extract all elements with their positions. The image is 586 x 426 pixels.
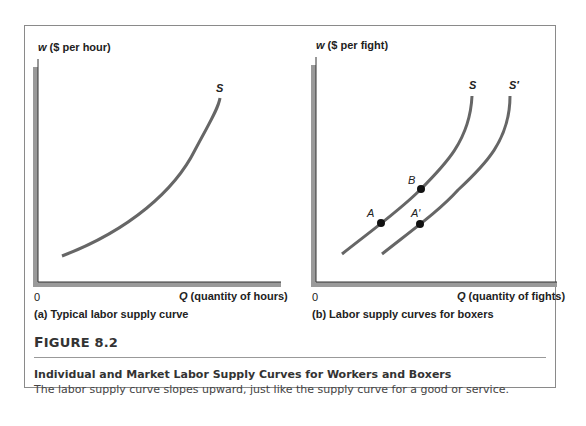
panel-b-supply-curve-s-prime <box>382 96 510 254</box>
caption-title: Individual and Market Labor Supply Curve… <box>34 368 451 381</box>
panel-b-curve-s-prime-label: S′ <box>509 79 519 91</box>
point-a-prime-label: A′ <box>411 207 420 219</box>
panel-a-subtitle: (a) Typical labor supply curve <box>34 308 188 320</box>
panel-a-x-label: Q (quantity of hours) <box>179 290 288 302</box>
panel-a-y-label: w ($ per hour) <box>38 41 111 53</box>
charts-svg <box>0 0 586 426</box>
panel-a-origin: 0 <box>34 291 40 303</box>
point-a <box>377 219 385 227</box>
panel-b-origin: 0 <box>312 291 318 303</box>
point-b-label: B <box>408 174 415 186</box>
panel-a-x-axis-shadow <box>33 282 281 287</box>
point-a-label: A <box>367 207 374 219</box>
panel-b-x-label: Q (quantity of fights) <box>457 290 565 302</box>
panel-a-y-axis-shadow <box>33 67 38 287</box>
panel-b-y-axis-shadow <box>311 65 316 287</box>
figure-label: FIGURE 8.2 <box>34 334 118 350</box>
panel-a-curve-label: S <box>216 82 223 94</box>
panel-a-supply-curve <box>62 98 220 256</box>
panel-b-y-label: w ($ per fight) <box>316 39 388 51</box>
point-b <box>417 185 425 193</box>
panel-b-x-axis-shadow <box>311 282 557 287</box>
panel-b-subtitle: (b) Labor supply curves for boxers <box>312 308 494 320</box>
point-a-prime <box>416 220 424 228</box>
panel-b-curve-s-label: S <box>469 79 476 91</box>
caption-divider <box>34 357 546 358</box>
caption-body: The labor supply curve slopes upward, ju… <box>34 383 509 396</box>
panel-b-supply-curve-s <box>342 96 472 254</box>
